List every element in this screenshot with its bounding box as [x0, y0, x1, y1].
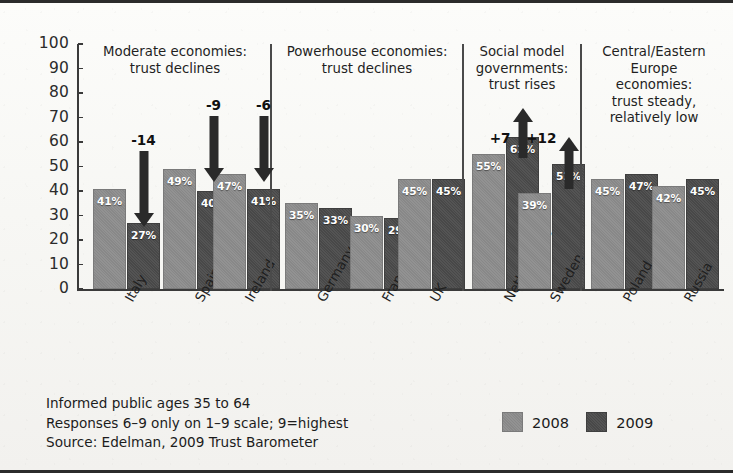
delta-arrow-spain	[202, 3, 226, 303]
arrow-head	[204, 168, 224, 182]
y-axis-tick-label: 70	[25, 108, 69, 126]
y-axis-tick-mark	[78, 190, 83, 192]
group-header-powerhouse: Powerhouse economies:trust declines	[276, 44, 458, 77]
arrow-shaft	[139, 151, 148, 213]
bar-russia-2008[interactable]: 42%	[652, 186, 685, 289]
arrow-head	[559, 137, 579, 151]
y-axis-tick-mark	[78, 239, 83, 241]
y-axis-tick-label: 100	[25, 34, 69, 52]
bar-value-label: 41%	[94, 195, 125, 207]
arrow-shaft	[259, 116, 268, 168]
delta-label-ireland: -6	[240, 97, 288, 113]
group-header-line: relatively low	[586, 110, 722, 127]
arrow-head	[134, 213, 154, 227]
y-axis-tick-label: 0	[25, 279, 69, 297]
arrow-shaft	[209, 116, 218, 168]
delta-arrow-sweden	[557, 3, 581, 303]
bar-value-label: 45%	[433, 185, 464, 197]
group-header-line: Powerhouse economies:	[276, 44, 458, 61]
y-axis-tick-mark	[78, 141, 83, 143]
group-header-line: trust declines	[276, 61, 458, 78]
bar-germany-2008[interactable]: 35%	[285, 203, 318, 289]
delta-label-netherlands: +7	[477, 130, 511, 146]
y-axis-tick-label: 10	[25, 255, 69, 273]
group-header-line: economies:	[586, 77, 722, 94]
footnote-line: Informed public ages 35 to 64	[46, 394, 348, 414]
y-axis-tick-label: 40	[25, 181, 69, 199]
bar-uk-2009[interactable]: 45%	[432, 179, 465, 289]
group-header-line: trust steady,	[586, 94, 722, 111]
delta-arrow-ireland	[252, 3, 276, 303]
delta-arrow-italy	[132, 3, 156, 303]
y-axis-tick-mark	[78, 117, 83, 119]
y-axis-tick-mark	[78, 166, 83, 168]
footnote-line: Responses 6–9 only on 1–9 scale; 9=highe…	[46, 414, 348, 434]
bar-value-label: 33%	[320, 214, 351, 226]
group-header-moderate: Moderate economies:trust declines	[84, 44, 266, 77]
bar-poland-2008[interactable]: 45%	[591, 179, 624, 289]
legend-swatch-icon	[586, 412, 607, 432]
group-header-line: Central/Eastern	[586, 44, 722, 61]
arrow-head	[254, 168, 274, 182]
group-separator-2	[462, 44, 464, 291]
bar-spain-2008[interactable]: 49%	[163, 169, 196, 289]
delta-label-italy: -14	[120, 132, 168, 148]
y-axis-tick-mark	[78, 215, 83, 217]
chart-frame: 010203040506070809010041%27%Italy49%40%S…	[0, 0, 733, 473]
legend-label: 2009	[616, 414, 653, 431]
legend-item-2009[interactable]: 2009	[586, 412, 653, 432]
bar-value-label: 30%	[351, 222, 382, 234]
group-header-line: Europe	[586, 61, 722, 78]
bar-value-label: 45%	[592, 185, 623, 197]
bar-france-2008[interactable]: 30%	[350, 216, 383, 290]
delta-label-spain: -9	[190, 97, 238, 113]
arrow-head	[513, 108, 533, 122]
y-axis-tick-label: 20	[25, 230, 69, 248]
legend-item-2008[interactable]: 2008	[502, 412, 569, 432]
footnote-line: Source: Edelman, 2009 Trust Barometer	[46, 433, 348, 453]
y-axis-tick-mark	[78, 92, 83, 94]
y-axis-tick-label: 50	[25, 157, 69, 175]
bar-value-label: 55%	[473, 160, 504, 172]
group-header-central-eastern: Central/EasternEuropeeconomies:trust ste…	[586, 44, 722, 127]
bar-value-label: 45%	[687, 185, 718, 197]
delta-label-sweden: +12	[523, 130, 557, 146]
bar-netherlands-2008[interactable]: 55%	[472, 154, 505, 289]
bar-value-label: 35%	[286, 209, 317, 221]
arrow-shaft	[564, 151, 573, 189]
footnotes-block: Informed public ages 35 to 64Responses 6…	[46, 394, 348, 453]
y-axis-tick-mark	[78, 288, 83, 290]
bar-value-label: 49%	[164, 175, 195, 187]
group-header-line: Moderate economies:	[84, 44, 266, 61]
y-axis-tick-mark	[78, 264, 83, 266]
delta-arrow-netherlands	[511, 3, 535, 303]
group-header-line: trust declines	[84, 61, 266, 78]
legend-swatch-icon	[502, 412, 523, 432]
legend-label: 2008	[532, 414, 569, 431]
chart-legend: 20082009	[502, 412, 653, 432]
bar-value-label: 45%	[399, 185, 430, 197]
y-axis-tick-label: 90	[25, 59, 69, 77]
y-axis-tick-label: 80	[25, 83, 69, 101]
y-axis-tick-label: 60	[25, 132, 69, 150]
y-axis-tick-mark	[78, 68, 83, 70]
bar-uk-2008[interactable]: 45%	[398, 179, 431, 289]
y-axis-tick-label: 30	[25, 206, 69, 224]
bar-value-label: 42%	[653, 192, 684, 204]
y-axis-tick-mark	[78, 43, 83, 45]
bar-italy-2008[interactable]: 41%	[93, 189, 126, 289]
